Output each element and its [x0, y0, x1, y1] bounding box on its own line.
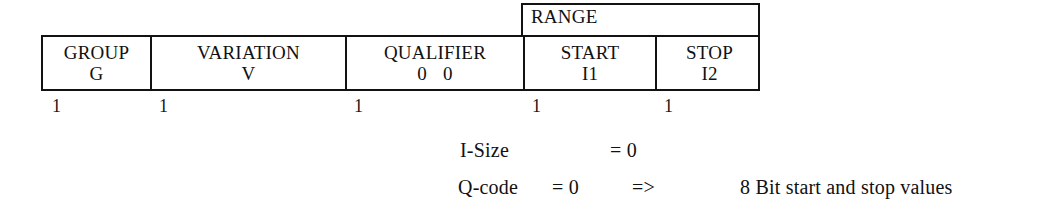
- cell-value-qualifier-bit-b: 0: [443, 63, 453, 84]
- table-cell-start: START I1: [523, 37, 655, 89]
- qcode-description: 8 Bit start and stop values: [740, 175, 953, 199]
- table-cell-qualifier: QUALIFIER 00: [345, 37, 523, 89]
- qcode-value: = 0: [552, 175, 579, 199]
- table-cell-variation: VARIATION V: [150, 37, 345, 89]
- qcode-label: Q-code: [458, 175, 518, 199]
- cell-value-group: G: [90, 63, 104, 85]
- range-span-label: RANGE: [531, 6, 597, 28]
- table-cell-stop: STOP I2: [655, 37, 762, 89]
- field-size-start: 1: [532, 96, 541, 116]
- cell-title-stop: STOP: [686, 42, 733, 63]
- isize-label: I-Size: [460, 138, 509, 162]
- cell-title-qualifier: QUALIFIER: [384, 42, 486, 63]
- object-header-figure: RANGE GROUP G VARIATION V QUALIFIER 00 S…: [0, 0, 1038, 216]
- cell-title-start: START: [561, 42, 620, 63]
- cell-value-start: I1: [582, 63, 598, 85]
- table-cell-group: GROUP G: [43, 37, 150, 89]
- isize-value: = 0: [610, 138, 637, 162]
- header-field-row: GROUP G VARIATION V QUALIFIER 00 START I…: [41, 35, 760, 91]
- cell-value-qualifier-bit-a: 0: [417, 63, 427, 84]
- cell-value-qualifier: 00: [417, 63, 452, 85]
- cell-title-group: GROUP: [64, 42, 129, 63]
- cell-value-variation: V: [242, 63, 256, 85]
- cell-title-variation: VARIATION: [197, 42, 300, 63]
- cell-value-stop: I2: [701, 63, 717, 85]
- field-size-stop: 1: [664, 96, 673, 116]
- field-size-group: 1: [52, 96, 61, 116]
- range-span-header: RANGE: [521, 3, 760, 36]
- qcode-implies-arrow: =>: [632, 175, 655, 199]
- field-size-qualifier: 1: [354, 96, 363, 116]
- field-size-variation: 1: [159, 96, 168, 116]
- object-header-table: RANGE GROUP G VARIATION V QUALIFIER 00 S…: [41, 3, 760, 91]
